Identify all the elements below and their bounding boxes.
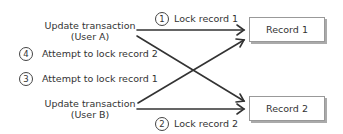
transaction-user-b-user: (User B) (42, 109, 138, 120)
step-1-number-icon: 1 (155, 12, 169, 26)
step-2-number-icon: 2 (155, 117, 169, 131)
transaction-user-b: Update transaction (User B) (42, 98, 138, 120)
record-2-box: Record 2 (249, 96, 325, 121)
transaction-user-a: Update transaction (User A) (42, 20, 138, 42)
step-3-label: Attempt to lock record 1 (42, 73, 158, 84)
transaction-user-b-title: Update transaction (42, 98, 138, 109)
transaction-user-a-user: (User A) (42, 31, 138, 42)
step-4-label: Attempt to lock record 2 (42, 48, 158, 59)
arrow-a-record2 (137, 36, 244, 101)
transaction-user-a-title: Update transaction (42, 20, 138, 31)
step-2-label: Lock record 2 (174, 118, 238, 129)
record-1-box: Record 1 (249, 17, 325, 42)
step-1-label: Lock record 1 (174, 13, 238, 24)
step-3-number-icon: 3 (19, 72, 33, 86)
step-4-number-icon: 4 (19, 47, 33, 61)
